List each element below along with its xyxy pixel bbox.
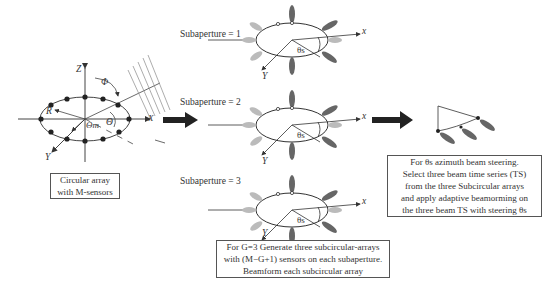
circular-array-diagram: [18, 55, 170, 162]
theta-label: Θ: [106, 117, 113, 127]
subarray-generation-caption: For G=3 Generate three subcircular-array…: [216, 240, 390, 278]
subaperture-3-y: Y: [262, 228, 267, 238]
z-axis-label: Z: [76, 64, 81, 74]
subaperture-3-x: x: [362, 196, 366, 206]
subaperture-1-x: x: [362, 26, 366, 36]
x-axis-label: X: [148, 113, 154, 123]
subaperture-1-angle: θs: [297, 45, 305, 55]
subaperture-3-angle: θs: [297, 215, 305, 225]
phi-label: Φ: [101, 77, 108, 87]
subaperture-3-label: Subaperture = 3: [180, 176, 241, 186]
circular-array-caption: Circular array with M-sensors: [50, 173, 120, 199]
subaperture-1-label: Subaperture = 1: [180, 29, 241, 39]
y-axis-label: Y: [45, 152, 50, 162]
combined-beam-diagram: [436, 106, 496, 146]
subaperture-2-angle: θs: [297, 130, 305, 140]
adaptive-beamforming-caption: For θs azimuth beam steering. Select thr…: [387, 155, 542, 217]
flow-arrows: [163, 111, 413, 129]
theta-m-label: Θm: [86, 120, 99, 130]
subaperture-2-x: x: [362, 111, 366, 121]
subaperture-diagram: [208, 5, 360, 75]
subaperture-2-y: Y: [262, 156, 267, 166]
radius-label: R: [46, 106, 52, 116]
subaperture-1-y: Y: [262, 71, 267, 81]
subaperture-2-label: Subaperture = 2: [180, 97, 241, 107]
